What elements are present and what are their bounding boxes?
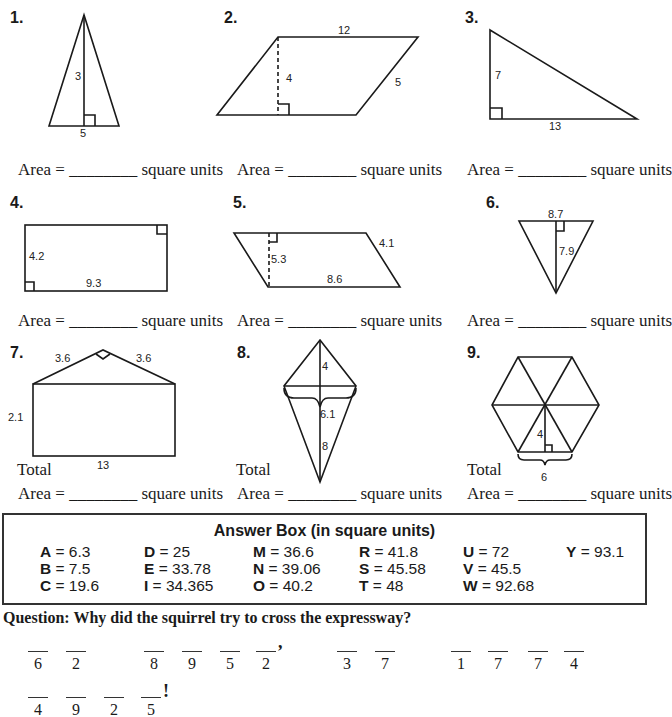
- code-digit: 9: [66, 701, 86, 717]
- answer-item: I = 34.365: [144, 577, 213, 595]
- answer-box-title: Answer Box (in square units): [4, 522, 645, 540]
- letter-blank[interactable]: [28, 697, 48, 698]
- code-digit: 2: [104, 701, 124, 717]
- code-digit: 8: [144, 655, 164, 673]
- code-digit: 7: [488, 655, 508, 673]
- answer-item: T = 48: [359, 577, 403, 595]
- label-apothem-9: 4: [537, 428, 543, 440]
- letter-blank[interactable]: [144, 651, 164, 652]
- letter-blank[interactable]: [375, 651, 395, 652]
- answer-item: C = 19.6: [40, 577, 99, 595]
- letter-blank[interactable]: [488, 651, 508, 652]
- answer-item: R = 41.8: [359, 543, 418, 561]
- answer-item: Y = 93.1: [566, 543, 624, 561]
- answer-item: A = 6.3: [40, 543, 90, 561]
- question-text: Question: Why did the squirrel try to cr…: [3, 609, 411, 627]
- answer-item: U = 72: [463, 543, 509, 561]
- area-prefix: Area =: [467, 484, 518, 503]
- answer-item: D = 25: [144, 543, 190, 561]
- code-digit: 5: [141, 701, 161, 717]
- letter-blank[interactable]: [337, 651, 357, 652]
- answer-item: M = 36.6: [253, 543, 314, 561]
- code-digit: 2: [66, 655, 86, 673]
- letter-blank[interactable]: [220, 651, 240, 652]
- letter-blank[interactable]: [66, 651, 86, 652]
- code-digit: 4: [28, 701, 48, 717]
- area-suffix: square units: [586, 484, 672, 503]
- code-digit: 2: [256, 655, 276, 673]
- letter-blank[interactable]: [564, 651, 584, 652]
- code-digit: 9: [182, 655, 202, 673]
- exclamation-punctuation: !: [163, 681, 169, 702]
- answer-item: E = 33.78: [144, 560, 211, 578]
- code-digit: 6: [28, 655, 48, 673]
- area-line-9[interactable]: Area = ________ square units: [467, 484, 672, 504]
- answer-item: V = 45.5: [463, 560, 521, 578]
- code-digit: 4: [564, 655, 584, 673]
- total-label-9: Total: [467, 460, 502, 480]
- label-side-9: 6: [541, 471, 547, 483]
- code-digit: 5: [220, 655, 240, 673]
- code-digit: 1: [451, 655, 471, 673]
- letter-blank[interactable]: [528, 651, 548, 652]
- answer-item: N = 39.06: [253, 560, 321, 578]
- answer-box: Answer Box (in square units) A = 6.3 B =…: [2, 513, 647, 605]
- letter-blank[interactable]: [104, 697, 124, 698]
- code-digit: 3: [337, 655, 357, 673]
- letter-blank[interactable]: [28, 651, 48, 652]
- answer-item: O = 40.2: [253, 577, 313, 595]
- code-digit: 7: [528, 655, 548, 673]
- area-answer-blank[interactable]: ________: [518, 484, 586, 503]
- hexagon-figure-9: [0, 0, 652, 490]
- answer-item: B = 7.5: [40, 560, 90, 578]
- letter-blank[interactable]: [256, 651, 276, 652]
- code-digit: 7: [375, 655, 395, 673]
- answer-item: W = 92.68: [463, 577, 534, 595]
- comma-punctuation: ,: [278, 632, 283, 653]
- letter-blank[interactable]: [66, 697, 86, 698]
- letter-blank[interactable]: [141, 697, 161, 698]
- letter-blank[interactable]: [451, 651, 471, 652]
- answer-item: S = 45.58: [359, 560, 426, 578]
- letter-blank[interactable]: [182, 651, 202, 652]
